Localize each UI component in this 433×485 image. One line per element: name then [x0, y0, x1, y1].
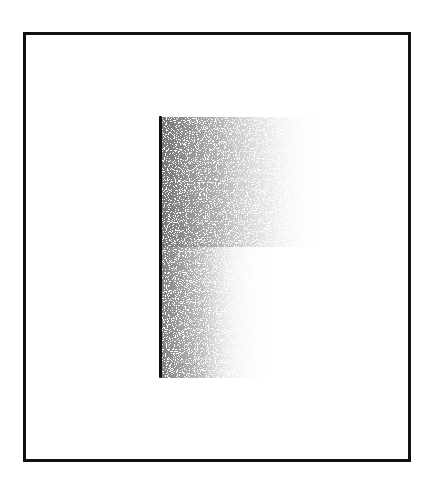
vertical-edge-line: [159, 116, 162, 378]
stippled-gradient-region: [162, 117, 322, 378]
gradient-shading-graphic: [162, 117, 322, 378]
